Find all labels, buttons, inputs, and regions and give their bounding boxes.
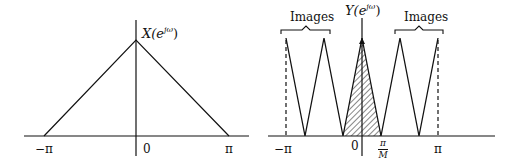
- left-plot-title: X(ejω): [142, 26, 178, 40]
- right-plot-title: Y(ejω): [345, 3, 380, 17]
- diagram-canvas: [0, 0, 517, 164]
- left-tick-zero: 0: [143, 143, 151, 155]
- left-plot: [24, 20, 249, 156]
- right-tick-pi-over-m: π M: [378, 139, 388, 160]
- left-tick-neg-pi: −π: [35, 143, 53, 155]
- images-left-label: Images: [290, 11, 334, 23]
- right-title-close: ): [375, 3, 380, 18]
- right-tick-neg-pi: −π: [274, 143, 292, 155]
- images-right-brace: [395, 26, 443, 34]
- baseband-hatched-region: [343, 40, 381, 136]
- left-tick-pi: π: [225, 143, 233, 155]
- images-left-brace: [281, 26, 330, 34]
- left-title-sup: jω: [164, 25, 173, 34]
- pi-over-m-denominator: M: [378, 151, 387, 160]
- right-title-main: Y(e: [345, 3, 366, 18]
- left-title-main: X(e: [142, 26, 164, 41]
- images-right-label: Images: [404, 11, 448, 23]
- right-tick-pi: π: [434, 143, 442, 155]
- right-plot: [268, 18, 495, 156]
- pi-over-m-numerator: π: [380, 139, 386, 148]
- right-tick-zero: 0: [351, 140, 359, 152]
- baseband-peak-fill: [359, 38, 365, 44]
- left-title-close: ): [173, 26, 178, 41]
